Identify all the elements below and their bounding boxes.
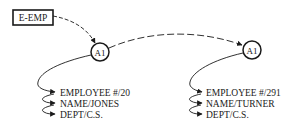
pointer-arrow-node1-to-node2 — [109, 34, 242, 48]
node-a1-first: A1 — [91, 43, 109, 61]
node-label: A1 — [247, 46, 258, 56]
field-link-curve — [189, 105, 202, 114]
field-link-curve — [189, 94, 202, 103]
field-link-curve — [38, 55, 91, 92]
entry-box-label: E-EMP — [19, 13, 48, 23]
node-a1-second: A1 — [243, 41, 261, 59]
field-link-curve — [190, 53, 243, 92]
node-label: A1 — [95, 48, 106, 58]
pointer-arrow-entry-to-node1 — [53, 16, 95, 43]
field-name: NAME/JONES — [60, 99, 119, 109]
field-link-curve — [42, 105, 55, 114]
field-employee-number: EMPLOYEE #/291 — [206, 88, 281, 98]
diagram-canvas: E-EMP A1 EMPLOYEE #/20 NAME/JONES DEPT/C… — [0, 0, 303, 138]
entry-box-e-emp: E-EMP — [13, 10, 53, 25]
field-link-curve — [42, 94, 55, 103]
field-name: NAME/TURNER — [206, 99, 275, 109]
field-employee-number: EMPLOYEE #/20 — [60, 88, 130, 98]
diagram-svg: E-EMP A1 EMPLOYEE #/20 NAME/JONES DEPT/C… — [0, 0, 303, 138]
field-dept: DEPT/C.S. — [206, 110, 249, 120]
field-dept: DEPT/C.S. — [60, 110, 103, 120]
